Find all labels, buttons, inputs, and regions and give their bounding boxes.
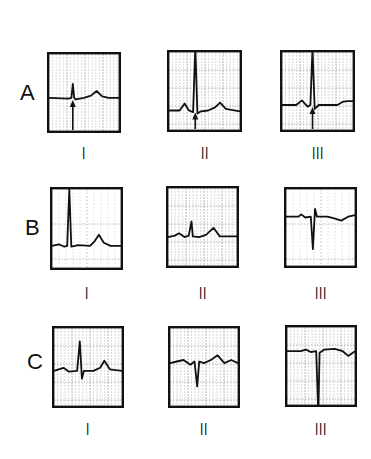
lead-label-ii: II [189,285,217,302]
lead-label-i: I [73,285,101,302]
row-label-a: A [20,82,35,104]
ecg-panel-a-lead-ii [167,50,242,132]
ecg-panel-a-lead-iii [280,50,355,132]
ecg-panel-c-lead-i [52,326,124,408]
row-label-c: C [27,351,43,373]
lead-label-i: I [70,145,98,162]
ecg-panel-a-lead-i [47,52,121,133]
ecg-panel-c-lead-ii [168,326,240,408]
ecg-panel-b-lead-iii [284,187,357,268]
ecg-panel-c-lead-iii [285,325,357,407]
lead-label-ii: II [191,145,219,162]
ecg-panel-b-lead-ii [166,186,239,268]
lead-label-i: I [74,421,102,438]
ecg-panel-b-lead-i [50,187,123,270]
row-label-b: B [25,217,40,239]
lead-label-iii: III [304,145,332,162]
lead-label-iii: III [307,285,335,302]
lead-label-iii: III [307,421,335,438]
lead-label-ii: II [190,421,218,438]
